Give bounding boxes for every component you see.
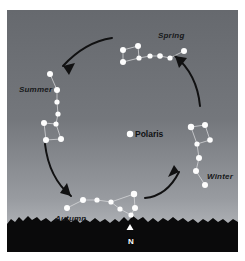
compass-north-marker [7,10,238,252]
night-sky-scene: Spring Summer Autumn Winter Polaris N [7,10,238,252]
figure-root: Spring Summer Autumn Winter Polaris N [0,0,245,261]
